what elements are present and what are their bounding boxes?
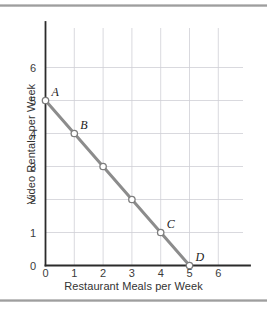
axes-group: [46, 22, 251, 266]
point-label-b: B: [80, 119, 87, 131]
x-axis-title: Restaurant Meals per Week: [0, 280, 267, 292]
x-tick-label: 3: [122, 267, 142, 279]
y-axis-title: Video Rentals per Week: [25, 84, 37, 204]
point-label-c: C: [167, 218, 175, 230]
x-tick-label: 6: [208, 267, 228, 279]
x-tick-label: 1: [64, 267, 84, 279]
x-tick-label: 2: [93, 267, 113, 279]
x-tick-label: 0: [36, 267, 56, 279]
x-tick-label: 4: [151, 267, 171, 279]
x-tick-label: 5: [180, 267, 200, 279]
y-tick-label: 0: [22, 260, 36, 272]
gridlines-group: [46, 28, 244, 266]
point-label-a: A: [52, 86, 59, 98]
data-line-group: [46, 101, 190, 266]
plot-canvas: [0, 0, 267, 310]
chart-figure: 0123456 0123456 ABCD Restaurant Meals pe…: [0, 0, 267, 310]
y-axis-title-wrapper: Video Rentals per Week: [21, 49, 39, 239]
point-label-d: D: [196, 251, 205, 263]
